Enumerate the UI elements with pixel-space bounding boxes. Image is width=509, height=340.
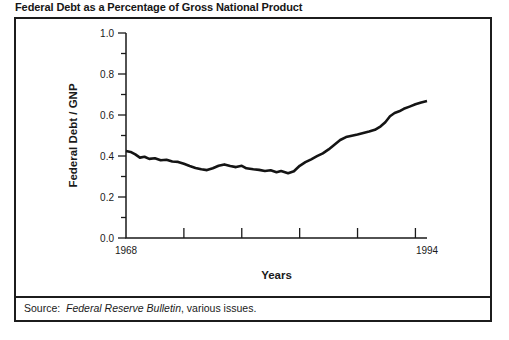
- source-suffix: , various issues.: [181, 302, 256, 314]
- x-tick-label-start: 1968: [115, 245, 138, 256]
- y-tick-label: 0.4: [100, 151, 114, 162]
- x-tick-label-end: 1994: [416, 245, 439, 256]
- debt-gnp-curve: [126, 101, 427, 173]
- source-label: Source:: [24, 302, 66, 314]
- y-tick-label: 0.6: [100, 110, 114, 121]
- figure-page: Federal Debt as a Percentage of Gross Na…: [0, 0, 509, 340]
- y-tick-label: 0.2: [100, 192, 114, 203]
- source-row: Source: Federal Reserve Bulletin, variou…: [16, 296, 490, 320]
- chart-title: Federal Debt as a Percentage of Gross Na…: [15, 1, 302, 13]
- plot-area: 0.00.20.40.60.81.019681994YearsFederal D…: [16, 19, 490, 296]
- y-tick-label: 1.0: [100, 28, 114, 39]
- x-axis-title: Years: [261, 269, 292, 281]
- y-axis-title: Federal Debt / GNP: [67, 83, 79, 187]
- figure-box: 0.00.20.40.60.81.019681994YearsFederal D…: [14, 17, 492, 322]
- y-tick-label: 0.0: [100, 233, 114, 244]
- y-tick-label: 0.8: [100, 69, 114, 80]
- axes: [126, 33, 427, 238]
- source-publication: Federal Reserve Bulletin: [66, 302, 181, 314]
- line-chart: 0.00.20.40.60.81.019681994YearsFederal D…: [16, 19, 490, 296]
